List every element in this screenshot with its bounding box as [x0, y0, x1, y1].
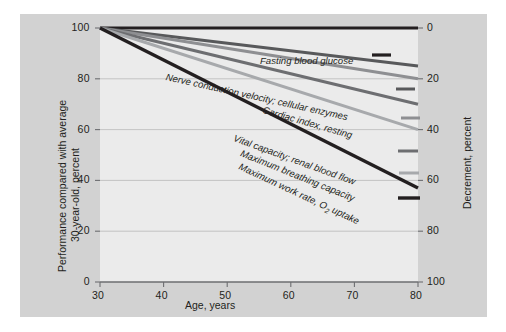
y-left-tick-100: 100	[71, 21, 89, 33]
y-right-tick-40: 40	[427, 123, 439, 135]
y-right-tick-80: 80	[427, 224, 439, 236]
x-tick-40: 40	[156, 289, 168, 301]
y-left-axis-title-line2: 30-year-old, percent	[69, 148, 81, 242]
x-tick-70: 70	[346, 289, 358, 301]
y-left-tick-0: 0	[84, 275, 90, 287]
y-left-tick-80: 80	[78, 72, 90, 84]
x-tick-60: 60	[283, 289, 295, 301]
gridlines-group	[100, 28, 418, 231]
y-right-tick-100: 100	[427, 275, 445, 287]
y-right-axis-title: Decrement, percent	[461, 117, 473, 209]
x-axis-title: Age, years	[185, 299, 235, 311]
figure-panel: Fasting blood glucoseNerve conduction ve…	[20, 14, 487, 317]
series-line-1	[100, 28, 418, 66]
series-label-0: Fasting blood glucose	[260, 55, 353, 66]
x-tick-30: 30	[92, 289, 104, 301]
chart-plot-area: Fasting blood glucoseNerve conduction ve…	[20, 14, 487, 317]
x-tick-80: 80	[410, 289, 422, 301]
y-left-tick-60: 60	[78, 123, 90, 135]
y-left-axis-title-line1: Performance compared with average	[56, 100, 68, 272]
y-right-tick-20: 20	[427, 72, 439, 84]
y-right-tick-0: 0	[427, 21, 433, 33]
y-right-tick-60: 60	[427, 173, 439, 185]
